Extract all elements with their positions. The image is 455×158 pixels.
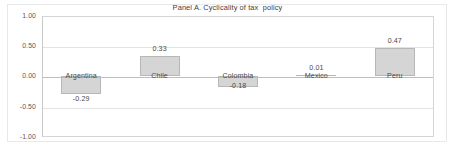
value-label-colombia: -0.18 — [230, 82, 247, 90]
category-label-argentina: Argentina — [66, 72, 97, 80]
value-label-peru: 0.47 — [388, 37, 402, 45]
y-axis-tick-1: 1.00 — [2, 12, 36, 20]
value-label-chile: 0.33 — [152, 45, 166, 53]
y-axis-tick-5: -1.00 — [2, 133, 36, 141]
category-label-peru: Peru — [387, 72, 402, 80]
y-axis-tick-4: -0.50 — [2, 103, 36, 111]
category-label-mexico: Mexico — [305, 72, 328, 80]
chart-container: Panel A. Cyclicality of tax policy 1.00 … — [0, 0, 455, 158]
value-label-argentina: -0.29 — [73, 95, 90, 103]
category-label-chile: Chile — [151, 72, 168, 80]
y-axis-tick-2: 0.50 — [2, 42, 36, 50]
y-axis-tick-3: 0.00 — [2, 72, 36, 80]
chart-title: Panel A. Cyclicality of tax policy — [0, 3, 455, 12]
category-label-colombia: Colombia — [223, 72, 254, 80]
value-label-mexico: 0.01 — [309, 64, 323, 72]
